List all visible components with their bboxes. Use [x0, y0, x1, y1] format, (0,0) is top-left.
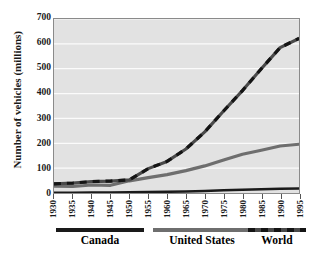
legend-item-canada[interactable]: Canada	[56, 228, 144, 247]
x-axis-tick-mark	[186, 194, 187, 199]
y-axis-tick-label: 500	[25, 64, 51, 74]
x-axis-tick-label: 1995	[296, 200, 305, 218]
x-axis-tick-mark	[167, 194, 168, 199]
legend-label: World	[248, 234, 306, 247]
x-axis-tick-label: 1945	[106, 200, 115, 218]
x-axis-tick-mark	[224, 194, 225, 199]
x-axis-tick-label: 1975	[220, 200, 229, 218]
y-axis-tick-label: 0	[25, 189, 51, 199]
plot-area	[53, 18, 300, 194]
legend-swatch	[153, 228, 251, 232]
legend-swatch	[248, 228, 306, 232]
chart-legend: CanadaUnited StatesWorld	[40, 228, 306, 258]
legend-item-world[interactable]: World	[248, 228, 306, 247]
y-axis-tick-label: 700	[25, 13, 51, 23]
series-line-canada	[54, 189, 299, 193]
legend-item-united-states[interactable]: United States	[153, 228, 251, 247]
y-axis-tick-label: 100	[25, 164, 51, 174]
x-axis-tick-labels: 1930193519401945195019551960196519701975…	[53, 200, 300, 228]
x-axis-tick-mark	[281, 194, 282, 199]
series-line-world-dash-overlay	[54, 38, 299, 183]
y-axis-tick-label: 400	[25, 89, 51, 99]
x-axis-tick-mark	[91, 194, 92, 199]
legend-label: Canada	[56, 234, 144, 247]
y-axis-tick-label: 300	[25, 114, 51, 124]
y-axis-tick-labels: 0100200300400500600700	[22, 0, 51, 265]
x-axis-tick-mark	[129, 194, 130, 199]
x-axis-tick-mark	[72, 194, 73, 199]
legend-label: United States	[153, 234, 251, 247]
x-axis-tick-mark	[300, 194, 301, 199]
x-axis-tick-label: 1980	[239, 200, 248, 218]
x-axis-tick-label: 1960	[163, 200, 172, 218]
vehicles-line-chart: Number of vehicles (millions) 0100200300…	[0, 0, 316, 265]
plot-svg	[54, 19, 299, 193]
x-axis-tick-label: 1935	[68, 200, 77, 218]
x-axis-tick-label: 1965	[182, 200, 191, 218]
x-axis-tick-label: 1990	[277, 200, 286, 218]
x-axis-tick-label: 1940	[87, 200, 96, 218]
x-axis-tick-label: 1970	[201, 200, 210, 218]
x-axis-tick-label: 1950	[125, 200, 134, 218]
x-axis-tick-label: 1985	[258, 200, 267, 218]
x-axis-tick-mark	[205, 194, 206, 199]
y-axis-tick-label: 600	[25, 38, 51, 48]
x-axis-tick-mark	[53, 194, 54, 199]
x-axis-tick-label: 1930	[49, 200, 58, 218]
x-axis-tick-mark	[243, 194, 244, 199]
series-line-world	[54, 38, 299, 183]
y-axis-tick-label: 200	[25, 139, 51, 149]
x-axis-tick-mark	[262, 194, 263, 199]
x-axis-tick-label: 1955	[144, 200, 153, 218]
legend-swatch	[56, 228, 144, 232]
x-axis-tick-mark	[148, 194, 149, 199]
x-axis-tick-mark	[110, 194, 111, 199]
